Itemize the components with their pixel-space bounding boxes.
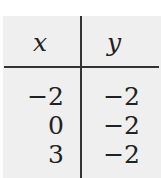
table-cell-y: −2 [90,112,140,140]
table-cell-x: 3 [0,141,64,169]
table-cell-x: 0 [0,112,64,140]
table-cell-y: −2 [90,83,140,111]
header-x: x [10,29,70,57]
table-cell-x: −2 [0,83,64,111]
column-divider [80,16,82,178]
header-y: y [84,29,144,57]
header-rule [4,66,159,68]
table-cell-y: −2 [90,141,140,169]
